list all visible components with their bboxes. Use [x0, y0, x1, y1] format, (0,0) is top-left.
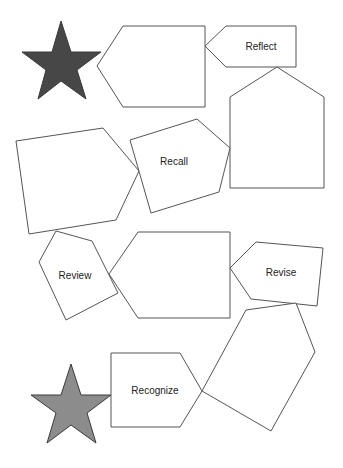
shape-tall-pentagon-blank[interactable] — [230, 67, 324, 188]
shape-hexagon-middle-blank[interactable] — [109, 232, 230, 318]
shape-bottom-pentagon-blank[interactable] — [202, 303, 315, 431]
revise-label: Revise — [266, 267, 297, 278]
review-label: Review — [59, 270, 93, 281]
hexagon-top-outline[interactable] — [97, 26, 205, 107]
shape-recall[interactable]: Recall — [130, 119, 230, 213]
hexagon-middle-outline[interactable] — [109, 232, 230, 318]
tall-pentagon-outline[interactable] — [230, 67, 324, 188]
diagram-canvas: Reflect Recall Review Revise Rec — [0, 0, 343, 468]
shape-left-pentagon-blank[interactable] — [16, 128, 139, 234]
shape-hexagon-top-blank[interactable] — [97, 26, 205, 107]
shapes-layer: Reflect Recall Review Revise Rec — [16, 26, 324, 431]
star-icon-top — [22, 21, 101, 99]
left-pentagon-outline[interactable] — [16, 128, 139, 234]
shape-recognize[interactable]: Recognize — [111, 353, 202, 427]
star-icon-bottom — [31, 364, 111, 443]
recall-label: Recall — [160, 156, 188, 167]
shape-review[interactable]: Review — [39, 231, 118, 320]
recognize-label: Recognize — [131, 385, 179, 396]
reflect-label: Reflect — [245, 41, 276, 52]
shape-reflect[interactable]: Reflect — [205, 26, 296, 67]
shape-revise[interactable]: Revise — [230, 242, 323, 306]
bottom-pentagon-outline[interactable] — [202, 303, 315, 431]
